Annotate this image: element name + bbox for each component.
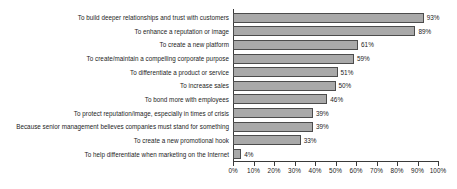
bar-value-label: 61% [361,39,374,50]
x-axis-tick [438,162,439,166]
x-axis-tick-label: 30% [288,167,301,174]
bar-value-label: 39% [316,121,329,132]
x-axis-tick-label: 20% [268,167,281,174]
bar-row: To build deeper relationships and trust … [0,11,457,25]
bar-row: To bond more with employees46% [0,93,457,107]
bar [233,54,354,64]
x-axis-tick-label: 40% [309,167,322,174]
bar [233,40,358,50]
bar [233,122,313,132]
bar-value-label: 50% [339,80,352,91]
plot-area: To build deeper relationships and trust … [0,0,457,189]
bar-row: To enhance a reputation or image89% [0,25,457,39]
bar [233,108,313,118]
x-axis-tick [254,162,255,166]
bar [233,67,338,77]
bar-row: To help differentiate when marketing on … [0,148,457,162]
bar-row: To differentiate a product or service51% [0,66,457,80]
bar [233,149,241,159]
category-label: To differentiate a product or service [130,66,229,80]
x-axis-tick [397,162,398,166]
category-label: To create a new platform [160,38,229,52]
bar-value-label: 51% [341,67,354,78]
bar [233,13,424,23]
category-label: To create a new promotional hook [134,134,229,148]
bar [233,94,327,104]
bar-row: Because senior management believes compa… [0,120,457,134]
bar-row: To protect reputation/image, especially … [0,107,457,121]
category-label: To build deeper relationships and trust … [78,11,229,25]
category-label: To increase sales [180,79,229,93]
bar [233,135,301,145]
x-axis-tick [418,162,419,166]
x-axis-tick-label: 10% [247,167,260,174]
bar-value-label: 89% [418,26,431,37]
x-axis-tick [315,162,316,166]
bar-value-label: 39% [316,108,329,119]
bar [233,81,336,91]
category-label: To create/maintain a compelling corporat… [87,52,229,66]
bar-row: To create/maintain a compelling corporat… [0,52,457,66]
x-axis-tick [336,162,337,166]
x-axis-tick-label: 80% [391,167,404,174]
x-axis-tick [233,162,234,166]
bar-row: To increase sales50% [0,79,457,93]
x-axis-tick-label: 90% [411,167,424,174]
bar-row: To create a new promotional hook33% [0,134,457,148]
x-axis-tick [295,162,296,166]
bar-value-label: 4% [244,149,253,160]
category-label: To bond more with employees [145,93,229,107]
x-axis-tick-label: 100% [430,167,446,174]
x-axis-tick [274,162,275,166]
x-axis-tick-label: 60% [350,167,363,174]
category-label: Because senior management believes compa… [16,120,229,134]
bar-chart: To build deeper relationships and trust … [0,0,457,189]
category-label: To enhance a reputation or image [135,25,229,39]
x-axis-tick-label: 70% [370,167,383,174]
x-axis-tick [377,162,378,166]
x-axis-tick-label: 50% [329,167,342,174]
bar [233,26,415,36]
x-axis-tick [356,162,357,166]
bar-row: To create a new platform61% [0,38,457,52]
x-axis-tick-label: 0% [228,167,237,174]
bar-value-label: 33% [304,135,317,146]
category-label: To protect reputation/image, especially … [74,107,229,121]
bar-value-label: 59% [357,53,370,64]
category-label: To help differentiate when marketing on … [85,148,229,162]
bar-value-label: 46% [330,94,343,105]
bar-value-label: 93% [427,12,440,23]
